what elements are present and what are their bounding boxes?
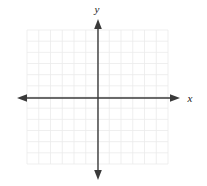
y-axis-bottom-arrowhead [94,170,102,180]
y-axis-label: y [94,3,100,15]
coordinate-plane-figure: y x [0,0,207,186]
x-axis-right-arrowhead [170,94,180,102]
x-axis-label: x [187,92,193,104]
coordinate-plane-svg: y x [0,0,207,186]
x-axis-left-arrowhead [17,94,27,102]
y-axis-top-arrowhead [94,19,102,29]
